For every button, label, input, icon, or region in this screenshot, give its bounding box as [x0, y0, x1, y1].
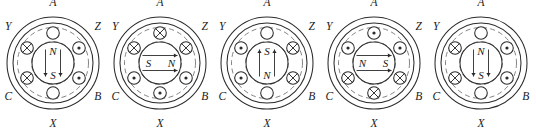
conductor-slot-lower-right	[394, 72, 407, 85]
pole-label-top: N	[476, 45, 485, 57]
conductor-slot-top	[368, 27, 381, 40]
terminal-label-x: X	[369, 117, 378, 129]
flux-arrow-head	[43, 73, 47, 77]
conductor-slot-upper-right	[394, 42, 407, 55]
terminal-label-b: B	[94, 90, 101, 102]
flux-arrow-head	[58, 73, 62, 77]
terminal-label-y: Y	[433, 20, 441, 32]
dot-icon	[132, 76, 135, 79]
terminal-label-z: Z	[202, 20, 209, 32]
conductor-slot-lower-left	[128, 72, 141, 85]
terminal-label-y: Y	[112, 20, 120, 32]
conductor-slot-top	[261, 27, 274, 40]
dot-icon	[346, 46, 349, 49]
conductor-slot-lower-right	[180, 72, 193, 85]
conductor-slot-top	[154, 27, 167, 40]
pole-label-top: S	[264, 45, 270, 57]
terminal-label-z: Z	[416, 20, 423, 32]
conductor-slot-top	[47, 27, 60, 40]
terminal-label-b: B	[415, 90, 422, 102]
terminal-label-b: B	[308, 90, 315, 102]
terminal-label-x: X	[155, 117, 164, 129]
stator-cross-section: NSABXCY	[428, 0, 535, 136]
conductor-slot-lower-right	[287, 72, 300, 85]
conductor-slot-bottom	[475, 87, 488, 100]
dot-icon	[239, 46, 242, 49]
flux-arrow-head	[272, 50, 276, 54]
terminal-label-a: A	[369, 0, 378, 8]
conductor-slot-bottom	[154, 87, 167, 100]
conductor-slot-bottom	[47, 87, 60, 100]
conductor-slot-lower-left	[21, 72, 34, 85]
flux-arrow-head	[257, 50, 261, 54]
flux-arrow-head	[471, 73, 475, 77]
terminal-label-a: A	[262, 0, 271, 8]
terminal-label-c: C	[432, 90, 440, 102]
terminal-label-c: C	[325, 90, 333, 102]
conductor-slot-top	[475, 27, 488, 40]
stator-panel-4: NSAZBXCY	[321, 0, 428, 136]
dot-icon	[505, 76, 508, 79]
flux-arrow-head	[174, 68, 178, 72]
terminal-label-a: A	[476, 0, 485, 8]
conductor-slot-upper-right	[180, 42, 193, 55]
conductor-slot-bottom	[368, 87, 381, 100]
terminal-label-y: Y	[219, 20, 227, 32]
terminal-label-z: Z	[95, 20, 102, 32]
conductor-slot-lower-right	[73, 72, 86, 85]
terminal-label-c: C	[4, 90, 12, 102]
pole-label-bottom: N	[262, 69, 271, 81]
conductor-slot-upper-right	[73, 42, 86, 55]
terminal-label-a: A	[48, 0, 57, 8]
slot-outline	[261, 27, 274, 40]
dot-icon	[372, 31, 375, 34]
stator-panel-3: SNAZBXCY	[214, 0, 321, 136]
terminal-label-b: B	[522, 90, 529, 102]
terminal-label-y: Y	[5, 20, 13, 32]
stator-panel-5: NSABXCY	[428, 0, 535, 136]
conductor-slot-lower-left	[342, 72, 355, 85]
stator-panel-2: SNAZBXCY	[107, 0, 214, 136]
flux-arrow-head	[388, 68, 392, 72]
flux-arrow-head	[486, 73, 490, 77]
dot-icon	[505, 46, 508, 49]
conductor-slot-upper-right	[287, 42, 300, 55]
terminal-label-c: C	[218, 90, 226, 102]
dot-icon	[158, 91, 161, 94]
stator-cross-section: NSAZBXCY	[0, 0, 107, 136]
dot-icon	[184, 76, 187, 79]
pole-label-bottom: S	[50, 69, 56, 81]
stator-cross-section: SNAZBXCY	[214, 0, 321, 136]
stator-cross-section: NSAZBXCY	[321, 0, 428, 136]
slot-outline	[475, 87, 488, 100]
slot-outline	[475, 27, 488, 40]
conductor-slot-upper-left	[449, 42, 462, 55]
conductor-slot-upper-right	[501, 42, 514, 55]
pole-label-bottom: S	[478, 69, 484, 81]
terminal-label-y: Y	[326, 20, 334, 32]
dot-icon	[398, 46, 401, 49]
pole-label-left: S	[146, 57, 152, 69]
pole-label-top: N	[48, 45, 57, 57]
dot-icon	[77, 76, 80, 79]
dot-icon	[77, 46, 80, 49]
pole-label-left: N	[358, 57, 367, 69]
conductor-slot-bottom	[261, 87, 274, 100]
pole-label-right: N	[167, 57, 176, 69]
flux-arrow-head	[388, 53, 392, 57]
conductor-slot-upper-left	[342, 42, 355, 55]
terminal-label-x: X	[262, 117, 271, 129]
terminal-label-b: B	[201, 90, 208, 102]
conductor-slot-lower-left	[235, 72, 248, 85]
conductor-slot-upper-left	[128, 42, 141, 55]
slot-outline	[47, 87, 60, 100]
slot-outline	[261, 87, 274, 100]
rotating-field-figure: NSAZBXCYSNAZBXCYSNAZBXCYNSAZBXCYNSABXCY	[0, 0, 536, 136]
stator-panel-1: NSAZBXCY	[0, 0, 107, 136]
pole-label-right: S	[383, 57, 389, 69]
terminal-label-x: X	[476, 117, 485, 129]
conductor-slot-lower-left	[449, 72, 462, 85]
conductor-slot-upper-left	[21, 42, 34, 55]
dot-icon	[239, 76, 242, 79]
terminal-label-x: X	[48, 117, 57, 129]
